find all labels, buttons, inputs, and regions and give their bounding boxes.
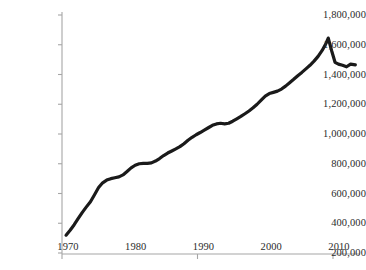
y-tick-label: 1,200,000 — [308, 98, 366, 109]
y-tick-label: 1,800,000 — [308, 9, 366, 20]
x-tick-marks — [62, 254, 333, 259]
x-tick-label: 2000 — [249, 241, 293, 252]
y-tick-label: 400,000 — [308, 217, 366, 228]
y-tick-label: 1,000,000 — [308, 128, 366, 139]
y-tick-label: 800,000 — [308, 158, 366, 169]
x-tick-label: 2010 — [317, 241, 361, 252]
y-tick-label: 1,600,000 — [308, 39, 366, 50]
line-chart: 1,800,0001,600,0001,400,0001,200,0001,00… — [0, 0, 366, 270]
y-tick-label: 600,000 — [308, 188, 366, 199]
y-tick-marks — [58, 15, 62, 253]
y-tick-label: 1,400,000 — [308, 69, 366, 80]
x-tick-label: 1980 — [114, 241, 158, 252]
x-tick-label: 1970 — [46, 241, 90, 252]
x-tick-label: 1990 — [182, 241, 226, 252]
